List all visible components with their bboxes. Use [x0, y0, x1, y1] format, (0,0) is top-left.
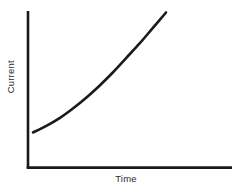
y-axis-label-wrapper: Current	[0, 0, 26, 189]
x-axis-label: Time	[104, 174, 148, 184]
chart-plot-area	[0, 0, 241, 189]
chart-container: Current Time	[0, 0, 241, 189]
y-axis-label: Current	[6, 49, 16, 105]
plot-background	[0, 0, 241, 189]
